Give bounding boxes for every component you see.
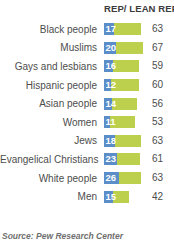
row-label: Gays and lesbians xyxy=(0,61,97,72)
row-bar: 14 xyxy=(104,98,137,110)
chart-row: Gays and lesbians1659 xyxy=(0,57,174,76)
bar-segment-inner: 12 xyxy=(104,79,111,91)
bar-inner-value: 18 xyxy=(104,135,116,147)
bar-outer-value: 53 xyxy=(152,116,163,128)
row-label: Hispanic people xyxy=(0,80,97,91)
bar-segment-inner: 23 xyxy=(104,153,117,165)
chart-row: Muslims2067 xyxy=(0,39,174,58)
chart-row: White people2663 xyxy=(0,169,174,188)
bar-segment-outer xyxy=(119,172,141,184)
bar-segment-outer xyxy=(115,135,141,147)
chart-row: Jews1863 xyxy=(0,132,174,151)
bar-segment-inner: 16 xyxy=(104,60,113,72)
bar-segment-inner: 18 xyxy=(104,135,115,147)
row-bar: 20 xyxy=(104,42,143,54)
bar-outer-value: 63 xyxy=(152,23,163,35)
row-label: Jews xyxy=(0,135,97,146)
bar-segment-inner: 17 xyxy=(104,23,114,35)
bar-inner-value: 26 xyxy=(104,172,116,184)
row-label: Black people xyxy=(0,24,97,35)
chart-row: Evangelical Christians2361 xyxy=(0,150,174,169)
bar-segment-inner: 11 xyxy=(104,116,110,128)
chart-row: Asian people1456 xyxy=(0,94,174,113)
bar-segment-outer xyxy=(114,23,141,35)
bar-inner-value: 23 xyxy=(104,153,116,165)
bar-segment-inner: 20 xyxy=(104,42,116,54)
bar-outer-value: 61 xyxy=(152,153,163,165)
bar-segment-outer xyxy=(113,60,138,72)
row-label: White people xyxy=(0,173,97,184)
bar-segment-inner: 15 xyxy=(104,191,113,203)
row-bar: 16 xyxy=(104,60,139,72)
bar-outer-value: 59 xyxy=(152,60,163,72)
row-label: Evangelical Christians xyxy=(0,154,97,165)
chart-rows: Black people1763Muslims2067Gays and lesb… xyxy=(0,20,174,206)
bar-inner-value: 16 xyxy=(104,60,116,72)
bar-inner-value: 15 xyxy=(104,191,116,203)
bar-inner-value: 20 xyxy=(104,42,116,54)
bar-outer-value: 60 xyxy=(152,79,163,91)
row-bar: 11 xyxy=(104,116,135,128)
bar-segment-outer xyxy=(116,42,143,54)
bar-inner-value: 14 xyxy=(104,98,116,110)
row-bar: 17 xyxy=(104,23,141,35)
bar-outer-value: 56 xyxy=(152,98,163,110)
chart-row: Men1542 xyxy=(0,187,174,206)
row-bar: 23 xyxy=(104,153,140,165)
row-bar: 12 xyxy=(104,79,139,91)
row-bar: 26 xyxy=(104,172,141,184)
row-label: Men xyxy=(0,191,97,202)
bar-inner-value: 12 xyxy=(104,79,116,91)
row-bar: 18 xyxy=(104,135,141,147)
column-header: REP/ LEAN REP xyxy=(104,3,174,14)
bar-inner-value: 11 xyxy=(104,116,116,128)
source-note: Source: Pew Research Center xyxy=(2,231,123,241)
row-bar: 15 xyxy=(104,191,129,203)
bar-outer-value: 63 xyxy=(152,135,163,147)
chart-row: Women1153 xyxy=(0,113,174,132)
bar-outer-value: 67 xyxy=(152,42,163,54)
chart-row: Hispanic people1260 xyxy=(0,76,174,95)
bar-segment-outer xyxy=(117,153,139,165)
bar-segment-inner: 14 xyxy=(104,98,112,110)
row-label: Women xyxy=(0,117,97,128)
bar-outer-value: 63 xyxy=(152,172,163,184)
bar-chart: REP/ LEAN REP Black people1763Muslims206… xyxy=(0,0,174,241)
bar-segment-inner: 26 xyxy=(104,172,119,184)
chart-row: Black people1763 xyxy=(0,20,174,39)
row-label: Asian people xyxy=(0,98,97,109)
bar-outer-value: 42 xyxy=(152,191,163,203)
bar-inner-value: 17 xyxy=(104,23,116,35)
row-label: Muslims xyxy=(0,42,97,53)
